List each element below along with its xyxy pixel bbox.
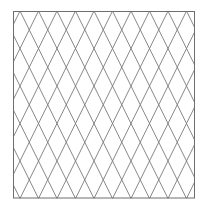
lattice-line bbox=[205, 11, 207, 199]
lattice-line bbox=[168, 11, 207, 199]
lattice-line bbox=[168, 11, 207, 199]
lattice-line bbox=[0, 11, 57, 199]
lattice-line bbox=[0, 11, 76, 199]
lattice-line bbox=[131, 11, 207, 199]
lattice-line bbox=[0, 11, 76, 199]
lattice-lines bbox=[0, 11, 207, 199]
lattice-line bbox=[0, 11, 39, 199]
lattice-line bbox=[187, 11, 208, 199]
lattice-line bbox=[150, 11, 208, 199]
lattice-line bbox=[0, 11, 57, 199]
lattice-line bbox=[0, 11, 2, 199]
lattice-line bbox=[0, 11, 2, 199]
diamond-lattice-figure bbox=[0, 0, 207, 207]
lattice-line bbox=[150, 11, 208, 199]
lattice-line bbox=[187, 11, 208, 199]
lattice-line bbox=[0, 11, 20, 199]
frame-border bbox=[14, 12, 195, 199]
lattice-line bbox=[0, 11, 20, 199]
lattice-line bbox=[205, 11, 207, 199]
lattice-line bbox=[131, 11, 207, 199]
lattice-line bbox=[0, 11, 39, 199]
